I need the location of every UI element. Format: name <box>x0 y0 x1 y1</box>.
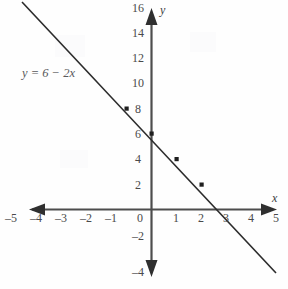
y-tick-label: 12 <box>128 52 148 64</box>
y-tick-label: 14 <box>128 27 148 39</box>
data-point-marker <box>200 183 204 187</box>
y-axis-name-label: y <box>160 4 165 16</box>
data-point-marker <box>125 107 129 111</box>
y-tick-label: 6 <box>131 128 145 140</box>
x-axis-name-label: x <box>272 192 277 204</box>
y-tick-label: –2 <box>128 230 148 242</box>
x-tick-label: –4 <box>26 212 46 224</box>
x-tick-label: 1 <box>170 212 182 224</box>
x-tick-label: –5 <box>1 212 21 224</box>
data-point-marker <box>175 157 179 161</box>
graph-figure: y = 6 − 2x y x 16 14 12 10 8 6 4 2 –2 –4… <box>0 0 288 289</box>
function-line <box>22 2 276 273</box>
x-tick-label: 4 <box>245 212 257 224</box>
data-point-marker <box>150 132 154 136</box>
y-tick-label: 8 <box>131 103 145 115</box>
origin-label: 0 <box>134 212 146 224</box>
x-tick-label: 2 <box>195 212 207 224</box>
y-tick-label: 10 <box>128 77 148 89</box>
graph-canvas <box>0 0 288 289</box>
y-tick-label: 4 <box>131 153 145 165</box>
x-tick-label: –3 <box>51 212 71 224</box>
x-tick-label: 5 <box>270 212 282 224</box>
x-tick-label: 3 <box>220 212 232 224</box>
x-tick-label: –2 <box>76 212 96 224</box>
y-tick-label: –4 <box>128 266 148 278</box>
x-tick-label: –1 <box>101 212 121 224</box>
equation-annotation: y = 6 − 2x <box>22 67 75 80</box>
y-tick-label: 2 <box>131 179 145 191</box>
y-tick-label: 16 <box>128 2 148 14</box>
